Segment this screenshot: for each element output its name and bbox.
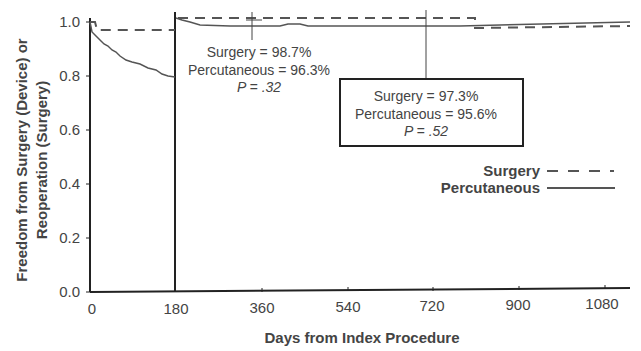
y-tick-5: 1.0 bbox=[59, 13, 80, 30]
y-axis: 0.0 0.2 0.4 0.6 0.8 1.0 bbox=[59, 13, 90, 300]
legend-surgery-label: Surgery bbox=[483, 162, 540, 179]
svg-text:P = .32: P = .32 bbox=[237, 79, 281, 95]
x-tick-6: 1080 bbox=[585, 295, 618, 312]
y-axis-label-line1: Freedom from Surgery (Device) or bbox=[13, 38, 30, 282]
x-axis: 0 180 360 540 720 900 1080 Days from Ind… bbox=[88, 12, 630, 346]
x-tick-1: 180 bbox=[163, 300, 188, 317]
svg-text:Surgery = 98.7%: Surgery = 98.7% bbox=[207, 44, 312, 60]
y-tick-2: 0.4 bbox=[59, 175, 80, 192]
km-chart: Freedom from Surgery (Device) or Reopera… bbox=[0, 0, 641, 351]
y-tick-1: 0.2 bbox=[59, 229, 80, 246]
y-tick-4: 0.8 bbox=[59, 67, 80, 84]
y-tick-0: 0.0 bbox=[59, 283, 80, 300]
y-axis-label-line2: Reoperation (Surgery) bbox=[33, 81, 50, 239]
x-tick-5: 900 bbox=[505, 296, 530, 313]
percutaneous-curve-late bbox=[176, 18, 630, 26]
svg-text:Percutaneous = 96.3%: Percutaneous = 96.3% bbox=[188, 62, 330, 78]
x-tick-3: 540 bbox=[335, 298, 360, 315]
svg-text:Surgery = 97.3%: Surgery = 97.3% bbox=[374, 88, 479, 104]
legend: Surgery Percutaneous bbox=[441, 162, 615, 196]
x-tick-4: 720 bbox=[419, 297, 444, 314]
x-tick-2: 360 bbox=[249, 299, 274, 316]
surgery-curve-early bbox=[90, 22, 175, 30]
x-tick-0: 0 bbox=[88, 300, 96, 317]
svg-text:P = .52: P = .52 bbox=[404, 123, 448, 139]
y-tick-3: 0.6 bbox=[59, 121, 80, 138]
legend-percutaneous-label: Percutaneous bbox=[441, 179, 540, 196]
x-axis-label: Days from Index Procedure bbox=[264, 329, 459, 346]
annotation-180-day: Surgery = 98.7% Percutaneous = 96.3% P =… bbox=[188, 44, 330, 95]
svg-text:Percutaneous = 95.6%: Percutaneous = 95.6% bbox=[355, 106, 497, 122]
annotation-720-day: Surgery = 97.3% Percutaneous = 95.6% P =… bbox=[340, 79, 523, 146]
